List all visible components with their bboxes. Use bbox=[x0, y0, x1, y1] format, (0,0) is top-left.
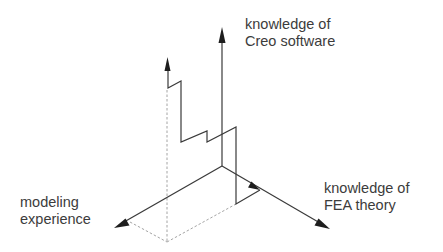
modeling-axis-label-line2: experience bbox=[20, 211, 91, 228]
axes bbox=[114, 27, 330, 229]
right-axis-arrowhead-icon bbox=[315, 219, 331, 230]
projection-lines bbox=[130, 90, 236, 242]
fea-axis-label: knowledge of FEA theory bbox=[324, 180, 409, 214]
creo-axis-label-line2: Creo software bbox=[245, 33, 335, 50]
dashed-right-projection bbox=[167, 204, 236, 242]
fea-axis-label-line2: FEA theory bbox=[324, 197, 409, 214]
right-axis-fea bbox=[222, 166, 320, 223]
creo-axis-label: knowledge of Creo software bbox=[245, 16, 335, 50]
vertical-axis-arrowhead-icon bbox=[219, 27, 226, 43]
modeling-axis-label: modeling experience bbox=[20, 194, 91, 228]
progression-path bbox=[165, 57, 261, 204]
creo-axis-label-line1: knowledge of bbox=[245, 16, 335, 33]
left-axis-modeling bbox=[124, 166, 222, 222]
modeling-axis-label-line1: modeling bbox=[20, 194, 91, 211]
staircase-arrowhead-icon bbox=[165, 57, 171, 71]
fea-axis-label-line1: knowledge of bbox=[324, 180, 409, 197]
staircase-path bbox=[168, 70, 260, 204]
dashed-left-projection bbox=[130, 222, 167, 242]
